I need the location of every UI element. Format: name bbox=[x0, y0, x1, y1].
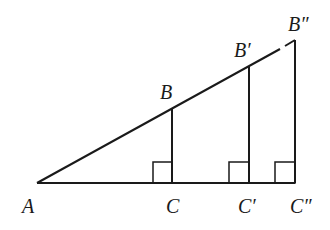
hypotenuse-a-b1 bbox=[37, 49, 280, 183]
right-angle-marker-c bbox=[153, 162, 172, 183]
label-a: A bbox=[20, 195, 35, 217]
label-c2: C″ bbox=[290, 195, 312, 217]
similar-triangles-diagram: A B C B′ C′ B″ C″ bbox=[0, 0, 330, 230]
hypotenuse-b1-b2-segment bbox=[285, 40, 295, 46]
right-angle-marker-c1 bbox=[229, 162, 249, 183]
label-b: B bbox=[160, 81, 172, 103]
label-c: C bbox=[166, 195, 180, 217]
label-c1: C′ bbox=[238, 195, 256, 217]
label-b2: B″ bbox=[288, 13, 309, 35]
label-b1: B′ bbox=[234, 39, 251, 61]
right-angle-marker-c2 bbox=[275, 162, 295, 183]
